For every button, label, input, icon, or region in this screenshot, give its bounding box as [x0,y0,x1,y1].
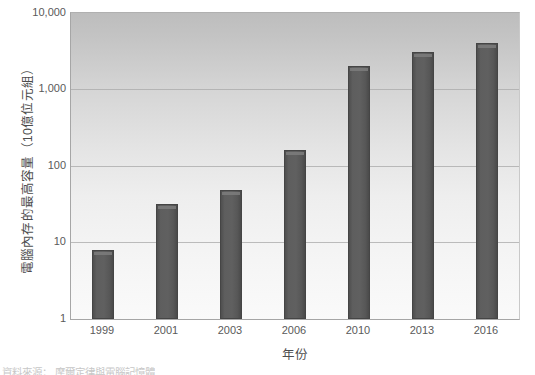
source-caption: 資料來源： 摩爾定律與電腦記憶體 [2,366,155,375]
x-tick-label-1999: 1999 [70,324,134,336]
bar-2003 [220,190,242,319]
x-tick-label-2006: 2006 [262,324,326,336]
bar-2010 [348,66,370,319]
y-tick-label: 1,000 [10,82,66,94]
bar-1999 [92,250,114,319]
y-axis-tick-labels: 10,000 1,000 100 10 1 [4,0,66,375]
x-tick-label-2010: 2010 [326,324,390,336]
x-axis-title: 年份 [70,344,520,363]
bar-chart: 電腦內存的最高容量（10億位元組） 10,000 1,000 100 10 1 … [0,0,535,375]
bars-layer [71,13,519,319]
y-tick-label: 100 [10,159,66,171]
bar-2006 [284,150,306,319]
x-tick-label-2016: 2016 [454,324,518,336]
bar-top-highlight [414,54,432,57]
x-tick-label-2013: 2013 [390,324,454,336]
bar-top-highlight [158,206,176,209]
x-axis-tick-labels: 1999200120032006201020132016 [70,324,520,342]
bar-top-highlight [94,252,112,255]
y-tick-label: 1 [10,312,66,324]
bar-top-highlight [286,152,304,155]
bar-top-highlight [350,68,368,71]
bar-2013 [412,52,434,319]
x-tick-label-2001: 2001 [134,324,198,336]
bar-top-highlight [222,192,240,195]
y-tick-label: 10,000 [10,6,66,18]
y-tick-label: 10 [10,235,66,247]
x-tick-label-2003: 2003 [198,324,262,336]
bar-2016 [476,43,498,319]
plot-area [70,12,520,320]
bar-2001 [156,204,178,319]
bar-top-highlight [478,45,496,48]
